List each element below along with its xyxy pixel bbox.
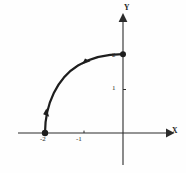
plot-svg [0,0,186,173]
x-tick-label-minus-2: -2 [40,135,45,143]
x-axis-label: X [172,126,177,135]
y-tick-label-1: 1 [112,84,115,92]
y-tick-label-2: 2 [112,51,115,59]
figure-canvas: X Y -2 -1 1 2 [0,0,186,173]
curve-path [45,54,123,133]
y-axis-label: Y [124,3,129,12]
y-axis-arrowhead [119,13,128,22]
x-tick-label-minus-1: -1 [76,135,81,143]
endpoint-dot-end [120,51,126,57]
